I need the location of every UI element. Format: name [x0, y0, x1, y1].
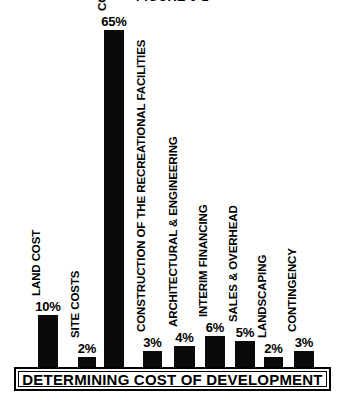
bar-value-label: 65% [101, 15, 126, 28]
bar-value-label: 5% [236, 326, 254, 339]
figure-root: FIGURE 6-1 10%LAND COST2%SITE COSTS65%CO… [0, 0, 345, 397]
bar-value-label: 10% [35, 300, 60, 313]
bar-category-label: SITE COSTS [69, 270, 81, 337]
bar[interactable] [143, 351, 162, 367]
bar-group[interactable]: 2%LANDSCAPING [264, 0, 283, 367]
bar-value-label: 2% [78, 342, 96, 355]
bar[interactable] [294, 351, 314, 367]
bar-category-label: CONSTRUCTION OF THE UNITS [96, 0, 108, 11]
bar-group[interactable]: 5%SALES & OVERHEAD [235, 0, 255, 367]
bar[interactable] [78, 357, 96, 367]
bar-value-label: 3% [143, 336, 161, 349]
bar-group[interactable]: 3%CONTINGENCY [294, 0, 314, 367]
bar-group[interactable]: 4%ARCHITECTURAL & ENGINEERING [174, 0, 195, 367]
bar[interactable] [174, 346, 195, 367]
bar-category-label: CONSTRUCTION OF THE RECREATIONAL FACILIT… [135, 40, 147, 332]
axis-caption-box: DETERMINING COST OF DEVELOPMENT [14, 367, 331, 391]
bar[interactable] [205, 336, 225, 367]
bar[interactable] [38, 315, 58, 367]
bar-category-label: SALES & OVERHEAD [227, 205, 239, 322]
bar-category-label: CONTINGENCY [286, 249, 298, 333]
bar-value-label: 2% [264, 342, 282, 355]
bar[interactable] [104, 30, 124, 367]
bar-category-label: INTERIM FINANCING [197, 204, 209, 317]
axis-caption-label: DETERMINING COST OF DEVELOPMENT [22, 371, 322, 388]
bar[interactable] [264, 357, 283, 367]
bar-group[interactable]: 10%LAND COST [38, 0, 58, 367]
bar-chart-plot-area: 10%LAND COST2%SITE COSTS65%CONSTRUCTION … [0, 0, 345, 367]
bar[interactable] [235, 341, 255, 367]
bar-group[interactable]: 2%SITE COSTS [78, 0, 96, 367]
bar-group[interactable]: 6%INTERIM FINANCING [205, 0, 225, 367]
bar-value-label: 4% [175, 331, 193, 344]
bar-group[interactable]: 3%CONSTRUCTION OF THE RECREATIONAL FACIL… [143, 0, 162, 367]
bar-value-label: 6% [206, 321, 224, 334]
bar-category-label: ARCHITECTURAL & ENGINEERING [167, 137, 179, 328]
bar-value-label: 3% [295, 336, 313, 349]
bar-group[interactable]: 65%CONSTRUCTION OF THE UNITS [104, 0, 124, 367]
bar-category-label: LANDSCAPING [256, 254, 268, 337]
bar-category-label: LAND COST [30, 230, 42, 296]
